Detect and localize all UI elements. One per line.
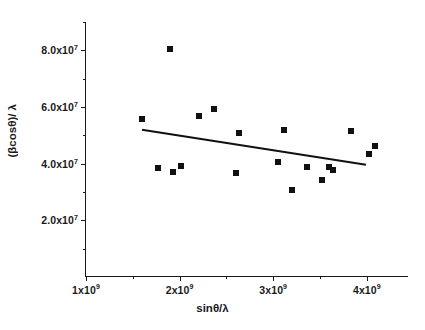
x-tick-major bbox=[86, 276, 87, 281]
x-tick-label: 2x109 bbox=[166, 283, 194, 296]
x-tick-minor bbox=[320, 276, 321, 279]
plot-frame: 2.0x1074.0x1076.0x1078.0x107 1x1092x1093… bbox=[85, 22, 408, 277]
data-point bbox=[281, 127, 287, 133]
y-tick-label: 4.0x107 bbox=[41, 157, 78, 170]
x-tick-minor bbox=[133, 276, 134, 279]
x-tick-minor bbox=[226, 276, 227, 279]
data-point bbox=[275, 159, 281, 165]
data-point bbox=[139, 116, 145, 122]
plot-area: 2.0x1074.0x1076.0x1078.0x107 1x1092x1093… bbox=[86, 22, 408, 276]
data-point bbox=[178, 163, 184, 169]
data-point bbox=[304, 164, 310, 170]
x-tick-major bbox=[273, 276, 274, 281]
data-point bbox=[167, 46, 173, 52]
y-tick-label: 6.0x107 bbox=[41, 101, 78, 114]
x-tick-label: 4x109 bbox=[353, 283, 381, 296]
data-point bbox=[348, 128, 354, 134]
data-point bbox=[372, 143, 378, 149]
data-point bbox=[330, 167, 336, 173]
data-point bbox=[366, 151, 372, 157]
data-point bbox=[289, 187, 295, 193]
data-point bbox=[170, 169, 176, 175]
y-tick-label: 2.0x107 bbox=[41, 214, 78, 227]
x-axis-title: sinθ/λ bbox=[0, 302, 425, 314]
y-tick-label: 8.0x107 bbox=[41, 44, 78, 57]
y-axis-title: (βcosθ)/ λ bbox=[6, 104, 24, 158]
x-tick-major bbox=[180, 276, 181, 281]
data-point bbox=[236, 130, 242, 136]
x-tick-label: 3x109 bbox=[259, 283, 287, 296]
data-point bbox=[319, 177, 325, 183]
data-point bbox=[196, 113, 202, 119]
linear-fit-line bbox=[86, 22, 408, 276]
data-point bbox=[155, 165, 161, 171]
x-tick-major bbox=[367, 276, 368, 281]
x-tick-label: 1x109 bbox=[72, 283, 100, 296]
data-point bbox=[233, 170, 239, 176]
williamson-hall-scatter-figure: (βcosθ)/ λ 2.0x1074.0x1076.0x1078.0x107 … bbox=[0, 0, 425, 330]
data-point bbox=[211, 106, 217, 112]
